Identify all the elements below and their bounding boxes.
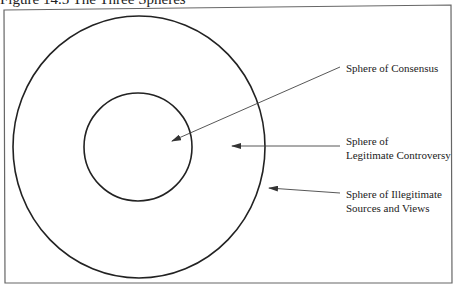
label-consensus: Sphere of Consensus (346, 61, 438, 75)
arrow-consensus (172, 67, 340, 141)
outer-circle-illegitimate (13, 16, 265, 278)
label-legitimate-controversy: Sphere of Legitimate Controversy (346, 134, 451, 162)
arrow-illegitimate (269, 188, 340, 193)
inner-circle-consensus (84, 93, 192, 201)
label-line: Sphere of (346, 134, 451, 148)
label-illegitimate: Sphere of Illegitimate Sources and Views (346, 187, 442, 215)
label-line: Sphere of Consensus (346, 61, 438, 75)
label-line: Sources and Views (346, 201, 442, 215)
label-line: Sphere of Illegitimate (346, 187, 442, 201)
label-line: Legitimate Controversy (346, 148, 451, 162)
